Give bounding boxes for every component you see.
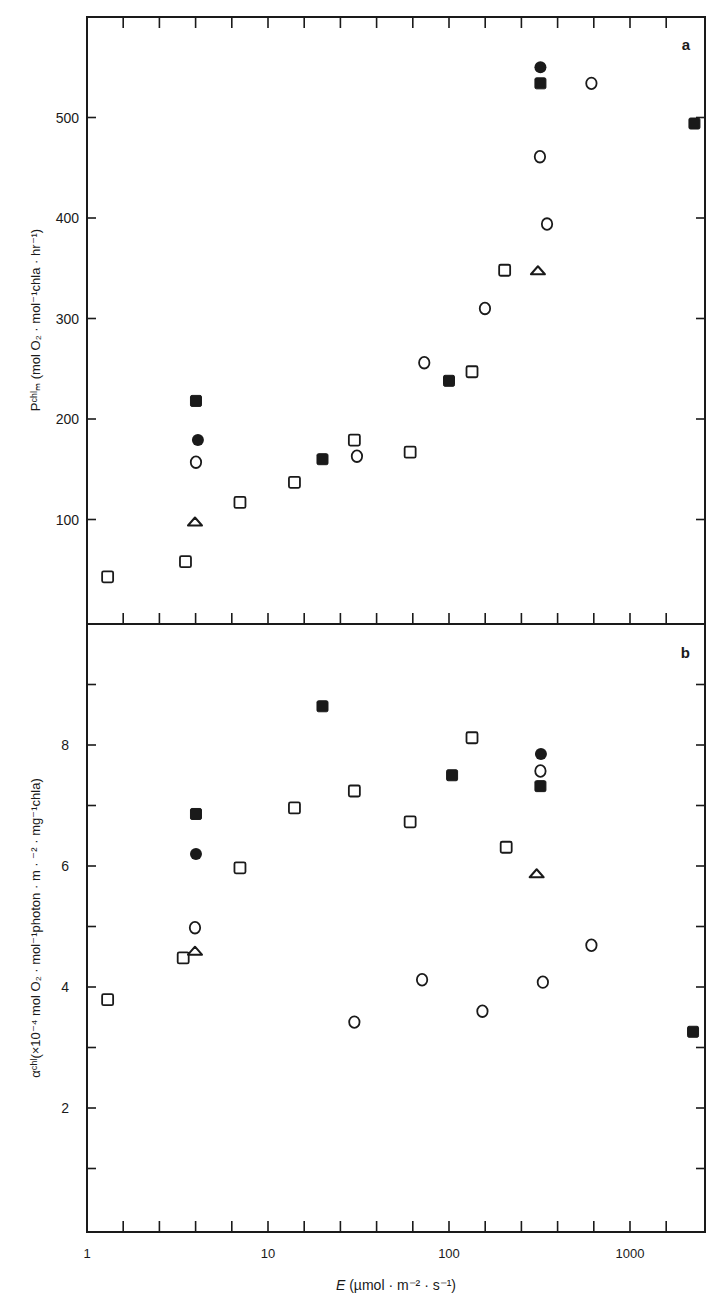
open-circle-marker — [190, 922, 200, 934]
open-circle-marker — [535, 765, 545, 777]
open-circle-marker — [417, 974, 427, 986]
open-circle-marker — [191, 456, 201, 468]
tick-labels: 11010010001002003004005002468 — [56, 110, 645, 1262]
open-square-marker — [234, 497, 245, 508]
panel-a-label: a — [682, 36, 691, 53]
filled-square-marker — [317, 454, 328, 465]
open-circle-marker — [535, 151, 545, 163]
filled-square-marker — [689, 118, 700, 129]
open-square-marker — [467, 732, 478, 743]
open-triangle-marker — [530, 869, 544, 877]
filled-square-marker — [688, 1026, 699, 1037]
open-square-marker — [180, 556, 191, 567]
open-square-marker — [289, 477, 300, 488]
open-square-marker — [234, 862, 245, 873]
figure: 11010010001002003004005002468 a b E (µmo… — [0, 0, 718, 1309]
filled-circle-marker — [192, 434, 204, 446]
open-square-marker — [405, 447, 416, 458]
filled-square-marker — [317, 701, 328, 712]
y-tick-label-a: 200 — [56, 411, 80, 427]
open-square-marker — [102, 994, 113, 1005]
open-square-marker — [349, 785, 360, 796]
open-square-marker — [499, 265, 510, 276]
y-tick-label-a: 100 — [56, 512, 80, 528]
open-circle-marker — [538, 976, 548, 988]
x-axis-title-units: (µmol · m⁻² · s⁻¹) — [345, 1277, 456, 1293]
open-square-marker — [405, 816, 416, 827]
open-square-marker — [467, 366, 478, 377]
open-triangle-marker — [188, 518, 202, 526]
filled-square-marker — [447, 770, 458, 781]
filled-square-marker — [444, 375, 455, 386]
panel-a-data-points — [102, 61, 700, 582]
y-tick-label-a: 400 — [56, 210, 80, 226]
open-circle-marker — [349, 1016, 359, 1028]
x-tick-label: 1 — [83, 1246, 90, 1261]
open-circle-marker — [477, 1005, 487, 1017]
open-square-marker — [289, 802, 300, 813]
y-tick-label-b: 4 — [61, 979, 69, 995]
panel-b-y-axis-title: αᶜʰˡ(×10⁻⁴ mol O₂ · mol⁻¹photon · m · ⁻²… — [28, 778, 43, 1077]
x-axis-title: E (µmol · m⁻² · s⁻¹) — [336, 1277, 456, 1293]
open-triangle-marker — [531, 266, 545, 274]
panel-b-data-points — [102, 701, 698, 1037]
open-circle-marker — [542, 218, 552, 230]
panel-b-label: b — [681, 644, 690, 661]
plot-frame — [87, 17, 705, 1232]
x-tick-label: 10 — [261, 1246, 275, 1261]
y-tick-label-b: 8 — [61, 737, 69, 753]
open-circle-marker — [352, 450, 362, 462]
x-tick-label: 100 — [438, 1246, 460, 1261]
open-square-marker — [102, 571, 113, 582]
open-circle-marker — [586, 78, 596, 90]
filled-circle-marker — [190, 848, 202, 860]
y-tick-label-b: 2 — [61, 1100, 69, 1116]
filled-square-marker — [190, 808, 201, 819]
panel-a-y-axis-title: Pᶜʰˡₘ (mol O₂ · mol⁻¹chla · hr⁻¹) — [28, 229, 43, 411]
y-tick-label-a: 300 — [56, 311, 80, 327]
filled-circle-marker — [535, 748, 547, 760]
open-circle-marker — [586, 939, 596, 951]
filled-square-marker — [535, 78, 546, 89]
x-tick-label: 1000 — [616, 1246, 645, 1261]
open-square-marker — [178, 952, 189, 963]
filled-square-marker — [190, 395, 201, 406]
open-square-marker — [501, 842, 512, 853]
filled-square-marker — [535, 781, 546, 792]
open-circle-marker — [419, 357, 429, 369]
y-tick-label-b: 6 — [61, 858, 69, 874]
y-tick-label-a: 500 — [56, 110, 80, 126]
open-square-marker — [349, 435, 360, 446]
open-circle-marker — [480, 303, 490, 315]
open-triangle-marker — [188, 947, 202, 955]
filled-circle-marker — [534, 61, 546, 73]
